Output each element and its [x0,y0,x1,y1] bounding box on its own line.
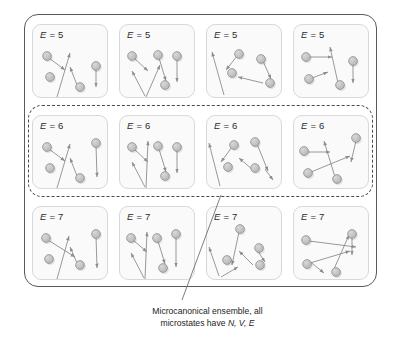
velocity-arrow-1 [209,247,219,276]
velocity-arrow-1 [132,71,145,96]
microstate-diagram [120,207,195,280]
microstate-cell-r2c1: E = 7 [119,206,195,280]
particle-1 [257,55,266,64]
particle-3 [92,230,101,239]
caption-variables: N, V, E [228,318,255,328]
caption-line-2: microstates have N, V, E [105,318,310,330]
velocity-arrow-1 [131,253,144,278]
highlighted-row-dashed-box [28,105,373,197]
particle-3 [336,81,345,90]
particle-3 [161,81,170,90]
velocity-arrow-2 [145,232,147,279]
microstate-diagram [207,207,282,280]
velocity-arrow-3 [158,241,165,264]
particle-0 [302,53,311,62]
caption-line-2-prefix: microstates have [161,318,228,328]
particle-3 [266,79,275,88]
particle-1 [153,234,162,243]
particle-0 [128,52,137,61]
microstate-cell-r0c1: E = 5 [119,24,195,98]
particle-2 [303,260,312,269]
microstate-cell-r0c0: E = 5 [32,24,108,98]
microstate-cell-r2c3: E = 7 [293,206,369,280]
velocity-arrow-3 [310,251,350,263]
particle-3 [332,268,341,277]
microstate-cell-r2c2: E = 7 [206,206,282,280]
particle-0 [43,52,52,61]
figure-caption: Microcanonical ensemble, all microstates… [105,306,310,329]
velocity-arrow-0 [232,232,239,265]
microstate-cell-r0c2: E = 5 [206,24,282,98]
velocity-arrow-0 [226,56,237,70]
velocity-arrow-1 [330,47,338,83]
particle-2 [76,83,85,92]
microstate-diagram [33,207,108,280]
microstate-diagram [33,25,108,98]
velocity-arrow-2 [146,65,160,97]
velocity-arrow-1 [57,53,70,97]
particle-3 [256,261,265,270]
particle-2 [305,75,314,84]
particle-2 [173,52,182,61]
microstate-diagram [294,207,369,280]
velocity-arrow-2 [221,267,238,277]
particle-0 [236,225,245,234]
velocity-arrow-1 [212,52,224,95]
velocity-arrow-3 [159,58,166,81]
particle-1 [223,256,232,265]
particle-1 [348,230,357,239]
microcanonical-ensemble-figure: E = 5E = 5E = 5E = 5E = 6E = 6E = 6E = 6… [0,0,411,344]
velocity-arrow-3 [238,77,263,83]
velocity-arrow-0 [309,241,356,247]
particle-0 [42,234,51,243]
particle-3 [92,62,101,71]
particle-1 [349,57,358,66]
particle-2 [255,244,264,253]
microstate-diagram [207,25,282,98]
particle-1 [45,255,54,264]
velocity-arrow-1 [57,236,69,279]
particle-0 [302,236,311,245]
microstate-diagram [294,25,369,98]
particle-1 [46,73,55,82]
microstate-diagram [120,25,195,98]
particle-2 [228,69,237,78]
velocity-arrow-4 [239,251,253,265]
velocity-arrow-3 [312,72,328,78]
microstate-cell-r0c3: E = 5 [293,24,369,98]
particle-2 [76,261,85,270]
velocity-arrow-3 [96,236,97,268]
particle-0 [235,50,244,59]
caption-line-1: Microcanonical ensemble, all [105,306,310,318]
particle-3 [159,264,168,273]
particle-0 [127,234,136,243]
velocity-arrow-2 [70,67,77,85]
microstate-cell-r2c0: E = 7 [32,206,108,280]
particle-2 [172,230,181,239]
particle-1 [154,51,163,60]
